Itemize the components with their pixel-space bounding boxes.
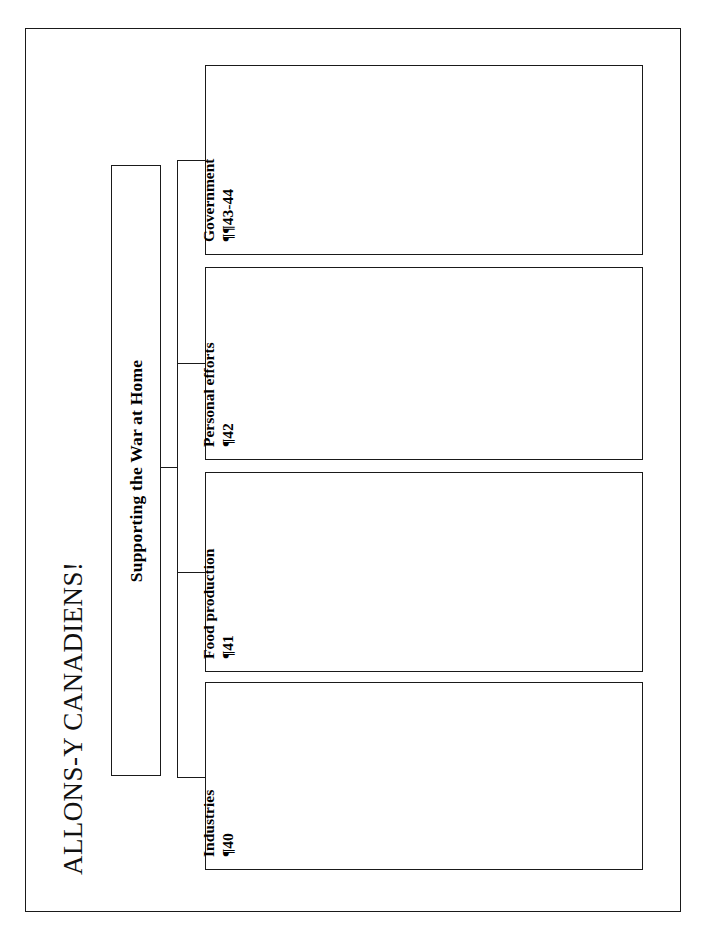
connector-root-stub	[160, 467, 178, 468]
node-box-industries: Industries ¶40	[205, 682, 643, 870]
node-title: Industries	[200, 790, 218, 857]
node-reference-government: ¶¶43-44	[219, 189, 237, 242]
node-label-industries: Industries	[200, 790, 218, 857]
node-title: Government	[200, 158, 218, 242]
root-node-box: Supporting the War at Home	[111, 165, 161, 776]
node-box-food-production: Food production ¶41	[205, 472, 643, 672]
connector-spine	[177, 160, 178, 778]
node-label-government: Government	[200, 158, 218, 242]
node-reference-food-production: ¶41	[219, 635, 237, 659]
root-node-label: Supporting the War at Home	[126, 359, 147, 581]
node-reference-personal-efforts: ¶42	[219, 423, 237, 447]
node-box-personal-efforts: Personal efforts ¶42	[205, 267, 643, 460]
node-title: Personal efforts	[200, 342, 218, 447]
node-label-personal-efforts: Personal efforts	[200, 342, 218, 447]
worksheet-page: ALLONS-Y CANADIENS! Supporting the War a…	[0, 0, 703, 935]
node-label-food-production: Food production	[200, 549, 218, 659]
node-title: Food production	[200, 549, 218, 659]
connector-branch-industries	[177, 777, 205, 778]
node-box-government: Government ¶¶43-44	[205, 65, 643, 255]
node-reference-industries: ¶40	[219, 833, 237, 857]
page-title: ALLONS-Y CANADIENS!	[43, 315, 103, 875]
